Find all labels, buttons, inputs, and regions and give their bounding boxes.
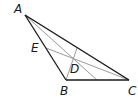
label-b: B [60, 84, 68, 98]
segment-e-to-c [46, 48, 129, 80]
label-e: E [31, 41, 39, 55]
label-a: A [13, 2, 22, 16]
triangle-diagram: A E D B C [0, 0, 138, 107]
label-d: D [70, 62, 79, 76]
label-c: C [128, 84, 137, 98]
